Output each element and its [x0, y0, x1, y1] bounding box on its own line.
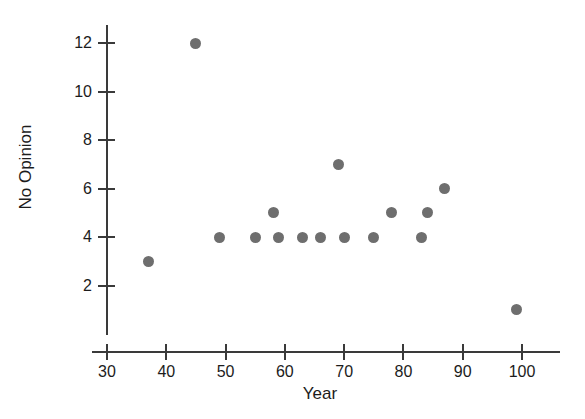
data-point — [511, 304, 522, 315]
data-point — [297, 232, 308, 243]
data-point — [143, 256, 154, 267]
data-point — [339, 232, 350, 243]
data-point — [268, 207, 279, 218]
scatter-plot-figure: 24681012 No Opinion 30405060708090100 Ye… — [0, 0, 585, 419]
plot-area — [0, 0, 585, 419]
data-point — [439, 183, 450, 194]
data-point — [368, 232, 379, 243]
data-point — [422, 207, 433, 218]
data-point — [386, 207, 397, 218]
data-point — [315, 232, 326, 243]
data-point — [333, 159, 344, 170]
data-point — [416, 232, 427, 243]
data-point — [190, 38, 201, 49]
data-point — [273, 232, 284, 243]
data-point — [214, 232, 225, 243]
data-point — [250, 232, 261, 243]
